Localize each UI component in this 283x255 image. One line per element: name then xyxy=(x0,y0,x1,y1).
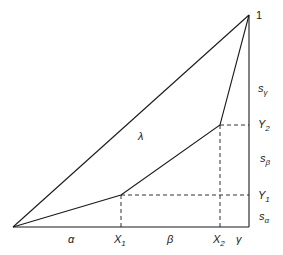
label-y1: Y1 xyxy=(258,190,270,204)
diagram-canvas xyxy=(0,0,283,255)
label-alpha: α xyxy=(68,234,74,245)
label-x2: X2 xyxy=(213,234,225,248)
label-gamma: γ xyxy=(236,234,242,245)
label-x1: X1 xyxy=(114,234,126,248)
label-lambda: λ xyxy=(138,131,143,142)
label-y2: Y2 xyxy=(258,119,270,133)
label-beta: β xyxy=(167,234,173,245)
label-s-alpha: sα xyxy=(259,211,269,225)
label-s-gamma: sγ xyxy=(258,83,268,97)
label-top-one: 1 xyxy=(256,10,262,21)
label-s-beta: sβ xyxy=(260,153,270,167)
